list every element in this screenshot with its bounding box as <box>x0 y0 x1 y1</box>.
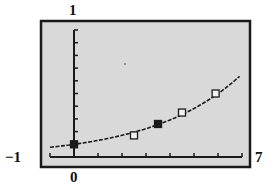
open-data-point <box>131 132 138 139</box>
open-data-point <box>179 109 186 116</box>
calculator-graph-screen <box>0 0 267 185</box>
filled-data-point <box>71 141 78 148</box>
open-data-point <box>212 90 219 97</box>
filled-data-point <box>155 120 162 127</box>
stray-mark <box>124 63 126 65</box>
